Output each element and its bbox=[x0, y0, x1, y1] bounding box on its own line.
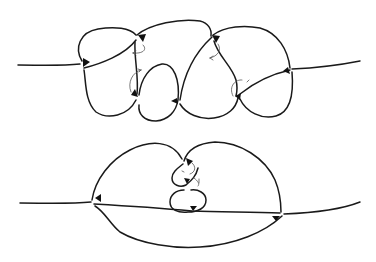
top-loop-1-chord bbox=[84, 40, 136, 68]
top-left-tail bbox=[18, 64, 80, 65]
crossing-arrow-4 bbox=[171, 98, 178, 104]
bottom-figure bbox=[20, 142, 360, 247]
bottom-rotation-hint-2 bbox=[194, 178, 199, 186]
crossing-arrow-7 bbox=[283, 67, 290, 74]
rotation-hint-4b bbox=[247, 80, 249, 82]
top-loop-4-left bbox=[180, 37, 212, 100]
bottom-right-upper-arc bbox=[184, 142, 281, 212]
bottom-rotation-hint-3 bbox=[182, 171, 184, 172]
crossing-arrow-2 bbox=[138, 34, 146, 42]
bottom-arrow-2 bbox=[186, 158, 193, 166]
top-loop-5-upper bbox=[213, 26, 290, 68]
top-loop-5-lower bbox=[240, 72, 292, 117]
bottom-small-upper-loop bbox=[172, 164, 198, 186]
rotation-hint-2 bbox=[130, 70, 141, 92]
crossing-arrow-1 bbox=[83, 58, 90, 67]
rotation-hint-3b bbox=[210, 56, 213, 60]
top-figure bbox=[18, 20, 360, 121]
top-s-curve bbox=[214, 41, 237, 96]
crossing-arrow-5 bbox=[212, 35, 220, 43]
top-right-tail bbox=[292, 61, 360, 69]
top-vertical-strand-left bbox=[135, 42, 138, 94]
bottom-arrow-1 bbox=[95, 194, 101, 202]
top-loop-1-lower bbox=[84, 70, 136, 116]
top-loop-3 bbox=[139, 64, 178, 121]
knot-diagram-canvas bbox=[0, 0, 376, 262]
top-loop-2-upper bbox=[137, 20, 211, 36]
bottom-right-tail bbox=[284, 202, 360, 214]
bottom-left-upper-arc bbox=[92, 143, 182, 200]
bottom-left-tail bbox=[20, 202, 91, 203]
bottom-rotation-hint-1 bbox=[190, 163, 195, 174]
top-loop-1-upper bbox=[79, 28, 136, 61]
top-loop-4-lower bbox=[180, 98, 238, 118]
